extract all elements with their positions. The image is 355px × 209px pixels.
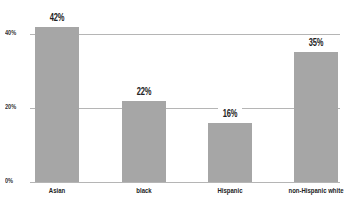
bar [208,123,252,182]
bar [35,27,79,182]
x-category-label: Asian [20,186,95,195]
bar-chart: 40% 20% 0% 42%Asian22%black16%Hispanic35… [0,0,355,209]
bar [122,101,166,182]
y-tick-label: 40% [5,29,16,36]
bar [294,52,338,182]
x-category-label: Hispanic [193,186,268,195]
x-category-label: non-Hispanic white [279,186,354,195]
bar-value-label: 22% [132,86,156,97]
y-tick-label: 0% [5,177,13,184]
bar-value-label: 16% [218,108,242,119]
bar-value-label: 35% [304,37,328,48]
gridline-0 [30,182,340,183]
x-category-label: black [107,186,182,195]
y-tick-label: 20% [5,103,16,110]
bar-value-label: 42% [45,12,69,23]
